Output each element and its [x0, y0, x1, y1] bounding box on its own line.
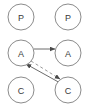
node-label: P	[18, 13, 24, 23]
edge-a-left-to-c-right	[31, 61, 60, 79]
node-p-left[interactable]: P	[8, 4, 34, 30]
edge-c-right-to-a-left	[26, 64, 62, 84]
node-label: C	[65, 86, 72, 96]
diagram-canvas: P P A A C C	[0, 0, 88, 107]
diagram-svg: P P A A C C	[0, 0, 88, 107]
node-c-right[interactable]: C	[55, 77, 81, 103]
node-group: P P A A C C	[8, 4, 81, 103]
node-label: P	[65, 13, 71, 23]
node-label: A	[65, 49, 71, 59]
node-p-right[interactable]: P	[55, 4, 81, 30]
node-a-left[interactable]: A	[8, 40, 34, 66]
node-a-right[interactable]: A	[55, 40, 81, 66]
node-label: A	[18, 49, 24, 59]
node-c-left[interactable]: C	[8, 77, 34, 103]
node-label: C	[18, 86, 25, 96]
